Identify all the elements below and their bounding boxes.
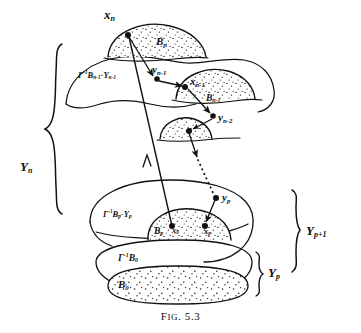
brace-Yn [45,44,62,214]
label-gamma-inv-Bn1-minus-Yn1: Γ-1Bn-1-Yn-1 [78,70,116,80]
region-Bp [142,203,238,245]
label-Y-p: Yp [268,266,280,281]
label-x-p: xp [204,227,211,236]
brace-Yp1 [292,190,300,272]
label-y-n-2: yn-2 [218,112,232,124]
point-yp [213,195,219,201]
point-small-dome [186,128,192,134]
label-Y-n: Yn [20,160,32,175]
point-yn1 [154,76,160,82]
label-y-n-1: yn-1 [152,64,166,76]
label-x-n: xn [104,8,115,23]
diagram-drawing [0,0,361,333]
label-gamma-inv-B0: Γ-1B0 [118,253,138,264]
label-B-n: Bn [156,36,167,48]
point-xn [125,32,131,38]
region-B0 [108,266,248,304]
figure-container: xn Bn Γ-1Bn-1-Yn-1 yn-1 xn-1 Bn-1 yn-2 Γ… [0,0,361,333]
dotted-descent [198,160,214,195]
figure-caption: FIG. 5.3 [0,310,361,322]
label-x-n-1: xn-1 [190,76,205,88]
label-x-0: x0 [172,226,179,235]
label-B-0: B0 [118,279,129,291]
point-yn2 [210,113,216,119]
label-gamma-inv-Bp-minus-Yp: Γ-1Bp-Yp [103,209,132,219]
label-B-p: Bp [154,227,163,237]
label-y-p: yp [222,192,230,204]
label-B-n-1: Bn-1 [206,94,221,104]
label-Y-p-plus-1: Yp+1 [306,224,327,239]
point-xn1 [182,84,188,90]
brace-Yp [256,252,263,296]
